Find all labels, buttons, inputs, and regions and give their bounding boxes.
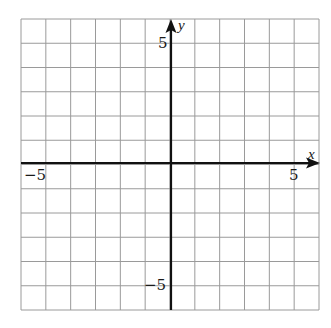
y-tick-label-neg5: −5	[144, 276, 166, 294]
x-axis-label: x	[307, 146, 315, 162]
y-axis-label: y	[176, 17, 185, 33]
coordinate-plane: x y −5 5 5 −5	[0, 0, 331, 328]
x-tick-label-5: 5	[289, 166, 299, 184]
x-tick-label-neg5: −5	[24, 166, 46, 184]
y-tick-label-5: 5	[158, 34, 168, 52]
